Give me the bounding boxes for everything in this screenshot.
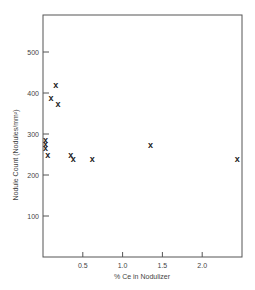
y-tick-label: 300 [27, 131, 39, 138]
data-point-marker: x [148, 140, 153, 150]
data-point-marker: x [235, 154, 240, 164]
y-axis-label: Nodule Count (Nodules/mm²) [12, 109, 20, 200]
x-axis-ticks: 0.51.01.52.0 [78, 252, 207, 269]
y-tick-label: 400 [27, 90, 39, 97]
data-point-marker: x [90, 154, 95, 164]
data-point-marker: x [71, 154, 76, 164]
plot-frame [43, 15, 242, 257]
y-tick-label: 200 [27, 172, 39, 179]
y-axis-ticks: 100200300400500 [27, 49, 49, 220]
plot-border [43, 15, 242, 257]
data-point-marker: x [48, 93, 53, 103]
data-point-marker: x [53, 80, 58, 90]
data-point-marker: x [45, 150, 50, 160]
x-tick-label: 2.0 [197, 262, 207, 269]
data-point-marker: x [56, 99, 61, 109]
y-tick-label: 100 [27, 213, 39, 220]
scatter-chart: 0.51.01.52.0 100200300400500 xxxxxxxxxxx… [0, 0, 255, 290]
x-tick-label: 1.5 [158, 262, 168, 269]
y-tick-label: 500 [27, 49, 39, 56]
x-axis-label: % Ce in Nodulizer [114, 273, 171, 280]
x-tick-label: 1.0 [118, 262, 128, 269]
data-points: xxxxxxxxxxxx [43, 80, 240, 164]
x-tick-label: 0.5 [78, 262, 88, 269]
